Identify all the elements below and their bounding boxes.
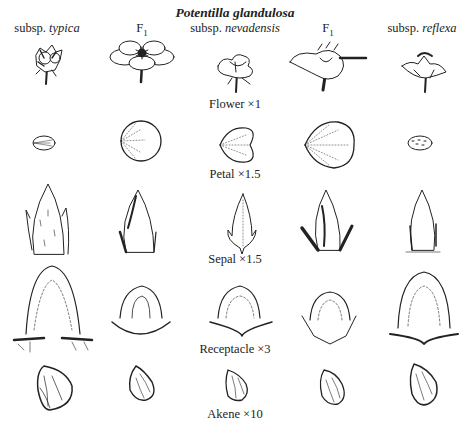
receptacle-typica-icon bbox=[14, 266, 92, 352]
receptacle-reflexa-icon bbox=[390, 272, 458, 344]
akene-typica-icon bbox=[38, 366, 73, 410]
flower-nevadensis-icon bbox=[218, 55, 253, 92]
botanical-drawings bbox=[0, 0, 470, 429]
receptacle-f1-right-icon bbox=[302, 292, 356, 344]
flower-typica-icon bbox=[36, 45, 62, 84]
petal-f1-right-icon bbox=[305, 122, 354, 168]
flower-f1-right-icon bbox=[290, 42, 366, 90]
petal-nevadensis-icon bbox=[220, 128, 253, 162]
sepal-nevadensis-icon bbox=[228, 194, 256, 254]
sepal-typica-icon bbox=[26, 184, 69, 254]
petal-f1-left-icon bbox=[121, 121, 161, 161]
akene-f1-left-icon bbox=[130, 366, 154, 400]
receptacle-f1-left-icon bbox=[112, 286, 170, 334]
sepal-f1-right-icon bbox=[302, 190, 352, 250]
akene-f1-right-icon bbox=[320, 370, 344, 404]
sepal-reflexa-icon bbox=[406, 190, 440, 252]
petal-typica-icon bbox=[33, 136, 55, 150]
flower-reflexa-icon bbox=[402, 53, 446, 92]
receptacle-nevadensis-icon bbox=[210, 286, 272, 336]
sepal-f1-left-icon bbox=[120, 190, 156, 252]
petal-reflexa-icon bbox=[408, 136, 432, 150]
akene-nevadensis-icon bbox=[226, 370, 247, 401]
flower-f1-left-icon bbox=[110, 41, 174, 82]
akene-reflexa-icon bbox=[410, 364, 437, 405]
